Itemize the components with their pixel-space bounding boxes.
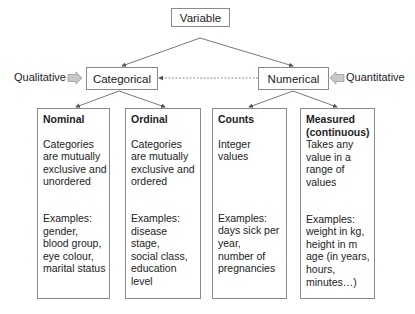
ordinal-example: stage, <box>131 237 200 250</box>
nominal-example: gender, <box>43 225 109 238</box>
categorical-node: Categorical <box>86 67 158 90</box>
quantitative-label: Quantitative <box>346 71 405 83</box>
measured-example: Examples: <box>306 213 374 226</box>
measured-desc: Takes any <box>306 138 374 151</box>
ordinal-example: Examples: <box>131 212 200 225</box>
ordinal-box: Ordinal Categories are mutually exclusiv… <box>125 108 201 299</box>
counts-example: Examples: <box>218 212 286 225</box>
measured-subtitle: (continuous) <box>306 126 374 139</box>
numerical-label: Numerical <box>268 73 320 85</box>
nominal-example: Examples: <box>43 212 109 225</box>
ordinal-desc: exclusive and <box>131 163 200 176</box>
ordinal-example: level <box>131 275 200 288</box>
counts-example: number of <box>218 250 286 263</box>
measured-title: Measured <box>306 113 374 126</box>
counts-example: year, <box>218 237 286 250</box>
counts-example: pregnancies <box>218 262 286 275</box>
measured-example: hours, <box>306 263 374 276</box>
ordinal-desc: ordered <box>131 175 200 188</box>
variable-label: Variable <box>180 12 221 24</box>
counts-example: days sick per <box>218 224 286 237</box>
qualitative-arrow-icon <box>68 72 82 84</box>
measured-example: age (in years, <box>306 250 374 263</box>
counts-box: Counts Integer values Examples: days sic… <box>212 108 287 299</box>
quantitative-arrow-icon <box>330 72 344 84</box>
measured-desc: value in a <box>306 151 374 164</box>
counts-desc: values <box>218 150 286 163</box>
measured-box: Measured (continuous) Takes any value in… <box>300 108 375 299</box>
ordinal-example: education <box>131 262 200 275</box>
ordinal-desc: Categories <box>131 138 200 151</box>
nominal-title: Nominal <box>43 113 109 126</box>
nominal-example: blood group, <box>43 237 109 250</box>
nominal-desc: unordered <box>43 175 109 188</box>
ordinal-title: Ordinal <box>131 113 200 126</box>
nominal-desc: Categories <box>43 138 109 151</box>
nominal-box: Nominal Categories are mutually exclusiv… <box>37 108 110 299</box>
ordinal-desc: are mutually <box>131 150 200 163</box>
ordinal-example: disease <box>131 225 200 238</box>
measured-example: minutes…) <box>306 276 374 289</box>
variable-node: Variable <box>171 8 230 27</box>
counts-title: Counts <box>218 113 286 126</box>
nominal-desc: exclusive and <box>43 163 109 176</box>
measured-example: weight in kg, <box>306 225 374 238</box>
categorical-label: Categorical <box>93 73 151 85</box>
measured-desc: range of <box>306 163 374 176</box>
nominal-example: eye colour, <box>43 250 109 263</box>
numerical-node: Numerical <box>258 67 329 90</box>
measured-example: height in m <box>306 238 374 251</box>
qualitative-label: Qualitative <box>14 71 66 83</box>
nominal-example: marital status <box>43 262 109 275</box>
nominal-desc: are mutually <box>43 150 109 163</box>
counts-desc: Integer <box>218 138 286 151</box>
measured-desc: values <box>306 176 374 189</box>
ordinal-example: social class, <box>131 250 200 263</box>
